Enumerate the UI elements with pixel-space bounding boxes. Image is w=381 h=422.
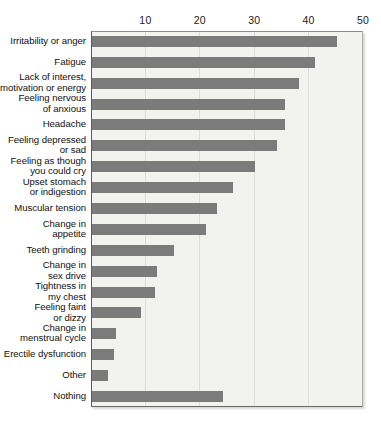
bar	[92, 287, 155, 298]
bar	[92, 266, 157, 277]
category-label: Feeling nervous of anxious	[0, 93, 86, 114]
x-tick-30: 30	[248, 14, 260, 26]
x-tick-50: 50	[357, 14, 369, 26]
bar	[92, 36, 337, 47]
category-label: Other	[0, 370, 86, 380]
category-label: Irritability or anger	[0, 36, 86, 46]
category-label: Upset stomach or indigestion	[0, 177, 86, 198]
category-label: Feeling faint or dizzy	[0, 302, 86, 323]
bar-row: Erectile dysfunction	[0, 344, 381, 365]
category-label: Headache	[0, 119, 86, 129]
category-label: Change in sex drive	[0, 260, 86, 281]
bar	[92, 328, 116, 339]
category-label: Change in appetite	[0, 219, 86, 240]
bar	[92, 391, 223, 402]
bar	[92, 140, 277, 151]
bar-row: Change in sex drive	[0, 261, 381, 282]
bar-row: Tightness in my chest	[0, 282, 381, 303]
category-label: Tightness in my chest	[0, 281, 86, 302]
bar-row: Feeling depressed or sad	[0, 135, 381, 156]
bar-row: Nothing	[0, 386, 381, 407]
x-axis-tick-labels: 1020304050	[0, 14, 381, 30]
category-label: Feeling as though you could cry	[0, 156, 86, 177]
bar-row: Irritability or anger	[0, 31, 381, 52]
category-label: Change in menstrual cycle	[0, 323, 86, 344]
category-label: Erectile dysfunction	[0, 349, 86, 359]
horizontal-bar-chart: 1020304050 Irritability or angerFatigueL…	[0, 0, 381, 422]
bar-row: Feeling faint or dizzy	[0, 303, 381, 324]
category-label: Lack of interest, motivation or energy	[0, 72, 86, 93]
category-label: Feeling depressed or sad	[0, 135, 86, 156]
bar	[92, 99, 285, 110]
bar-rows: Irritability or angerFatigueLack of inte…	[0, 31, 381, 407]
bar-row: Lack of interest, motivation or energy	[0, 73, 381, 94]
bar	[92, 307, 141, 318]
x-tick-20: 20	[194, 14, 206, 26]
bar	[92, 245, 174, 256]
bar-row: Teeth grinding	[0, 240, 381, 261]
category-label: Nothing	[0, 391, 86, 401]
x-tick-10: 10	[139, 14, 151, 26]
bar-row: Feeling as though you could cry	[0, 156, 381, 177]
bar	[92, 224, 206, 235]
category-label: Teeth grinding	[0, 245, 86, 255]
bar-row: Feeling nervous of anxious	[0, 94, 381, 115]
bar	[92, 57, 315, 68]
bar	[92, 182, 233, 193]
bar-row: Change in menstrual cycle	[0, 323, 381, 344]
bar	[92, 161, 255, 172]
bar	[92, 349, 114, 360]
bar-row: Muscular tension	[0, 198, 381, 219]
bar-row: Upset stomach or indigestion	[0, 177, 381, 198]
bar-row: Other	[0, 365, 381, 386]
category-label: Muscular tension	[0, 203, 86, 213]
bar-row: Headache	[0, 115, 381, 136]
category-label: Fatigue	[0, 57, 86, 67]
bar	[92, 78, 299, 89]
bar	[92, 203, 217, 214]
bar	[92, 370, 108, 381]
bar-row: Change in appetite	[0, 219, 381, 240]
bar	[92, 119, 285, 130]
bar-row: Fatigue	[0, 52, 381, 73]
x-tick-40: 40	[303, 14, 315, 26]
